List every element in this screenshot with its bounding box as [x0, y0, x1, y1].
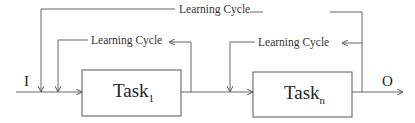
input-label: I [24, 73, 29, 90]
task-1-loop-label: Learning Cycle [91, 34, 162, 46]
task-n-loop-label: Learning Cycle [258, 36, 329, 48]
task-1-label: Task1 [113, 80, 154, 104]
output-label: O [382, 73, 393, 90]
outer-loop-label: Learning Cycle [179, 3, 250, 15]
task-n-label: Taskn [284, 82, 325, 106]
diagram-lines [0, 0, 415, 123]
